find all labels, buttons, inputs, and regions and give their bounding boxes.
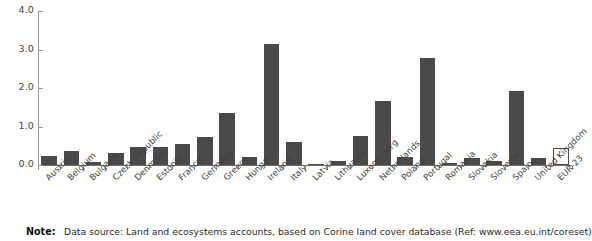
bar <box>264 44 280 165</box>
x-axis-label: Estonia <box>155 175 162 182</box>
x-axis-label: Italy <box>288 175 295 182</box>
x-axis-label: Hungary <box>244 175 251 182</box>
bar <box>420 58 436 165</box>
y-axis-tick-label: 3.0 <box>19 43 34 54</box>
note-text: Data source: Land and ecosystems account… <box>64 226 592 237</box>
x-axis-label: Luxembourg <box>355 175 362 182</box>
x-axis-label: Greece <box>221 175 228 182</box>
x-axis-label: France <box>177 175 184 182</box>
x-axis-label: Denmark <box>132 175 139 182</box>
y-axis-tick-label: 2.0 <box>19 81 34 92</box>
y-axis-tick-mark <box>38 50 43 51</box>
y-axis-tick-mark <box>38 11 43 12</box>
x-axis-label: Ireland <box>266 175 273 182</box>
x-axis-tick-mark <box>38 166 39 170</box>
x-axis-label: Slovenia <box>488 175 495 182</box>
x-axis-label: Latvia <box>310 175 317 182</box>
x-axis-label: Bulgaria <box>88 175 95 182</box>
x-axis-label: Germany <box>199 175 206 182</box>
x-axis-label: EUR-23 <box>555 175 562 182</box>
note-label: Note: <box>26 226 56 237</box>
x-axis-label: Austria <box>43 175 50 182</box>
y-axis-tick-mark <box>38 127 43 128</box>
x-axis-label: Romania <box>444 175 451 182</box>
x-axis-label: Spain <box>511 175 518 182</box>
x-axis-label: Poland <box>399 175 406 182</box>
x-axis-label: Netherlands <box>377 175 384 182</box>
x-axis-label: United Kingdom <box>533 175 540 182</box>
x-axis-label: Belgium <box>66 175 73 182</box>
x-axis-label: Slovakia <box>466 175 473 182</box>
x-axis-label: Czech Republic <box>110 175 117 182</box>
y-axis-tick-label: 1.0 <box>19 120 34 131</box>
x-axis-label: Lithuania <box>333 175 340 182</box>
y-axis-tick-label: 4.0 <box>19 4 34 15</box>
x-axis-label: Portugal <box>422 175 429 182</box>
y-axis-tick-mark <box>38 88 43 89</box>
plot-area: 0.01.02.03.04.0 AustriaBelgiumBulgariaCz… <box>38 11 572 165</box>
note-row: Note: Data source: Land and ecosystems a… <box>0 225 579 241</box>
y-axis-tick-label: 0.0 <box>19 158 34 169</box>
